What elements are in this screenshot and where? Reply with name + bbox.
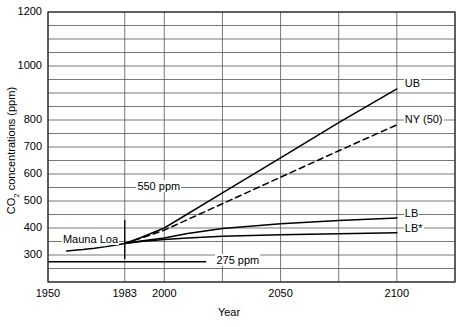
series-label-ub: UB — [404, 77, 421, 89]
chart-canvas — [0, 0, 458, 327]
y-tick-label: 600 — [0, 167, 42, 179]
x-tick-label: 1950 — [23, 287, 73, 299]
series-label-mauna-loa: Mauna Loa — [62, 233, 119, 245]
data-series — [67, 89, 397, 251]
y-tick-label: 800 — [0, 113, 42, 125]
series-label-lb: LB — [404, 207, 419, 219]
co2-concentration-chart: CO2 concentrations (ppm) Year 1200100080… — [0, 0, 458, 327]
y-tick-label: 500 — [0, 194, 42, 206]
y-tick-label: 700 — [0, 140, 42, 152]
series-label-ny-50: NY (50) — [404, 113, 444, 125]
series-label-lb: LB* — [404, 222, 424, 234]
y-tick-label: 1200 — [0, 5, 42, 17]
x-tick-label: 2050 — [256, 287, 306, 299]
reference-label-550: 550 ppm — [136, 180, 181, 192]
y-tick-label: 300 — [0, 248, 42, 260]
y-tick-label: 1000 — [0, 59, 42, 71]
x-tick-label: 2100 — [372, 287, 422, 299]
x-tick-label: 2000 — [139, 287, 189, 299]
x-axis-title: Year — [0, 306, 458, 318]
reference-label-275: 275 ppm — [215, 254, 260, 266]
y-tick-label: 400 — [0, 221, 42, 233]
